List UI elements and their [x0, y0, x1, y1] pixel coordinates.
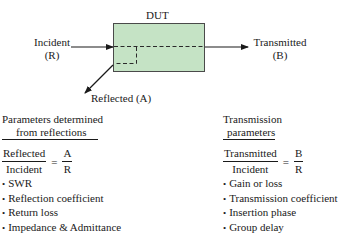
incident-label: Incident (R) [34, 36, 70, 62]
reflection-heading-line2: from reflections [2, 126, 98, 140]
reflected-label: Reflected (A) [91, 92, 151, 105]
ratio-denominator-symbol: R [64, 162, 71, 176]
ratio-numerator: Transmitted [223, 147, 278, 162]
incident-label-symbol: (R) [34, 49, 70, 62]
list-item: Insertion phase [223, 206, 338, 221]
reflection-ratio-symbols: A R [62, 147, 72, 176]
transmitted-label: Transmitted (B) [250, 36, 310, 62]
list-item: SWR [2, 177, 121, 192]
transmission-heading-line1: Transmission [223, 113, 282, 126]
list-item: Reflection coefficient [2, 192, 121, 207]
ratio-numerator-symbol: A [62, 147, 72, 162]
transmission-parameter-list: Gain or loss Transmission coefficient In… [223, 177, 338, 235]
dut-label: DUT [146, 9, 169, 22]
transmission-heading: Transmission parameters [223, 113, 282, 140]
transmitted-label-name: Transmitted [250, 36, 310, 49]
equals-sign: = [283, 156, 289, 168]
list-item: Impedance & Admittance [2, 221, 121, 236]
transmission-heading-line2: parameters [223, 126, 275, 140]
transmitted-label-symbol: (B) [250, 49, 310, 62]
ratio-denominator: Incident [6, 162, 42, 176]
ratio-denominator: Incident [232, 162, 268, 176]
reflection-parameter-list: SWR Reflection coefficient Return loss I… [2, 177, 121, 235]
list-item: Gain or loss [223, 177, 338, 192]
transmission-ratio-symbols: B R [294, 147, 303, 176]
reflected-arrow [85, 65, 113, 93]
ratio-denominator-symbol: R [295, 162, 302, 176]
list-item: Return loss [2, 206, 121, 221]
equals-sign: = [51, 156, 57, 168]
reflection-heading-line1: Parameters determined [2, 113, 103, 126]
ratio-numerator: Reflected [2, 147, 46, 162]
list-item: Group delay [223, 221, 338, 236]
reflection-heading: Parameters determined from reflections [2, 113, 103, 140]
reflection-ratio-words: Reflected Incident [2, 147, 46, 176]
transmission-ratio: Transmitted Incident = B R [223, 147, 303, 176]
transmission-ratio-words: Transmitted Incident [223, 147, 278, 176]
ratio-numerator-symbol: B [294, 147, 303, 162]
reflection-ratio: Reflected Incident = A R [2, 147, 72, 176]
incident-label-name: Incident [34, 36, 70, 49]
list-item: Transmission coefficient [223, 192, 338, 207]
dut-box [114, 24, 205, 72]
